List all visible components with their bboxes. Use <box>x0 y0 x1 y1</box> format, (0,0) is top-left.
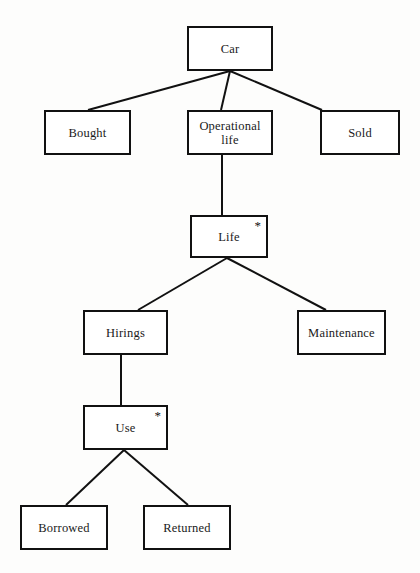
iteration-asterisk-icon: * <box>255 219 262 232</box>
node-sold[interactable]: Sold <box>320 110 400 155</box>
node-label-use: Use <box>112 421 138 435</box>
node-operational[interactable]: Operational life <box>187 110 273 155</box>
node-label-bought: Bought <box>65 126 109 140</box>
node-label-sold: Sold <box>345 126 375 140</box>
node-maintenance[interactable]: Maintenance <box>297 310 386 355</box>
connector-life-maintenance <box>227 258 326 310</box>
node-use[interactable]: Use* <box>83 405 168 450</box>
node-label-life: Life <box>215 230 243 244</box>
node-hirings[interactable]: Hirings <box>83 310 168 355</box>
node-borrowed[interactable]: Borrowed <box>20 505 108 550</box>
node-label-operational: Operational life <box>196 119 263 147</box>
structure-diagram-canvas: CarBoughtOperational lifeSoldLife*Hiring… <box>0 0 420 573</box>
node-bought[interactable]: Bought <box>44 110 131 155</box>
connector-life-hirings <box>138 258 227 310</box>
node-label-hirings: Hirings <box>103 326 148 340</box>
node-life[interactable]: Life* <box>190 215 268 258</box>
node-car[interactable]: Car <box>187 26 273 71</box>
node-label-borrowed: Borrowed <box>35 521 93 535</box>
connector-car-operational <box>221 71 230 110</box>
node-label-car: Car <box>218 42 243 56</box>
iteration-asterisk-icon: * <box>155 409 162 422</box>
connector-car-sold <box>230 71 322 110</box>
connector-use-borrowed <box>66 450 124 505</box>
node-label-returned: Returned <box>160 521 213 535</box>
node-returned[interactable]: Returned <box>143 505 231 550</box>
node-label-maintenance: Maintenance <box>305 326 378 340</box>
connector-use-returned <box>124 450 188 505</box>
edge-layer <box>0 0 420 573</box>
connector-car-bought <box>88 71 230 110</box>
